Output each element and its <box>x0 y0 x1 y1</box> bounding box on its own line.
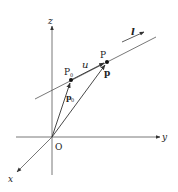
point-P0 <box>69 78 73 82</box>
vector-p0-subscript: 0 <box>71 97 74 103</box>
y-axis-label: y <box>161 132 168 142</box>
origin-label: O <box>55 142 62 152</box>
diagram: z y x O P P 0 u p p 0 l <box>0 0 178 192</box>
point-P0-subscript: 0 <box>70 72 73 78</box>
z-axis-label: z <box>47 16 53 26</box>
vector-p-label: p <box>104 68 110 78</box>
line-l <box>35 37 156 99</box>
x-axis <box>17 137 52 172</box>
point-P-label: P <box>100 50 106 60</box>
x-axis-label: x <box>8 174 13 184</box>
point-P <box>105 60 109 64</box>
line-l-label: l <box>131 26 135 37</box>
vector-u-label: u <box>82 59 88 70</box>
diagram-canvas: z y x O P P 0 u p p 0 l <box>0 0 178 192</box>
